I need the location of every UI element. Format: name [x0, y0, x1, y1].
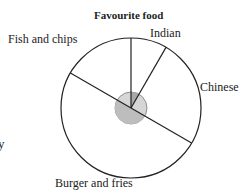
divider-indian-chinese: [131, 47, 166, 108]
label-fish-and-chips: Fish and chips: [8, 32, 77, 47]
edge-text-fragment: y: [0, 136, 5, 152]
label-burger-and-fries: Burger and fries: [55, 176, 133, 190]
chart-title: Favourite food: [94, 9, 163, 21]
label-indian: Indian: [150, 26, 181, 41]
label-chinese: Chinese: [200, 80, 239, 95]
pie-chart: [0, 0, 250, 190]
